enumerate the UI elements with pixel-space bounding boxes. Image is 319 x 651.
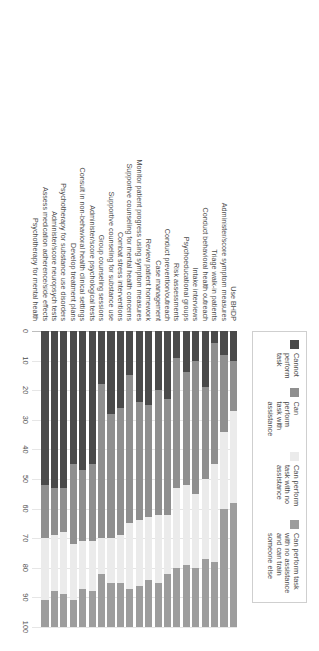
- bar-segment: [60, 331, 67, 488]
- bar-segment: [51, 591, 58, 627]
- bar-row[interactable]: [192, 331, 199, 627]
- bar-segment: [145, 405, 152, 517]
- x-tick-label: 90: [21, 593, 30, 601]
- bar-segment: [89, 541, 96, 591]
- bar-segment: [230, 361, 237, 411]
- category-label: Group counseling sessions: [98, 0, 105, 326]
- bar-segment: [89, 464, 96, 541]
- bar-segment: [211, 331, 218, 343]
- bar-segment: [51, 535, 58, 591]
- bar-segment: [173, 568, 180, 627]
- bar-segment: [136, 402, 143, 520]
- bar-row[interactable]: [107, 331, 114, 627]
- bar-row[interactable]: [98, 331, 105, 627]
- bar-segment: [107, 538, 114, 582]
- bar-segment: [79, 331, 86, 470]
- bar-segment: [79, 589, 86, 627]
- bar-segment: [183, 565, 190, 627]
- legend-item[interactable]: Can perform task with no assistance and …: [266, 520, 300, 594]
- bar-row[interactable]: [79, 331, 86, 627]
- bar-row[interactable]: [60, 331, 67, 627]
- gridline-100: [32, 627, 237, 628]
- bar-segment: [183, 331, 190, 372]
- bar-segment: [230, 411, 237, 503]
- x-tick-label: 60: [21, 504, 30, 512]
- bar-segment: [145, 517, 152, 579]
- bar-segment: [117, 331, 124, 408]
- bar-segment: [70, 331, 77, 464]
- x-tick-label: 30: [21, 416, 30, 424]
- x-tick-label: 80: [21, 564, 30, 572]
- bar-segment: [117, 583, 124, 627]
- bar-row[interactable]: [230, 331, 237, 627]
- bar-segment: [202, 331, 209, 387]
- bar-segment: [220, 331, 227, 355]
- bar-row[interactable]: [51, 331, 58, 627]
- bar-row[interactable]: [183, 331, 190, 627]
- category-label: Psychoeducational groups: [183, 0, 190, 326]
- value-axis-tick-labels: 0102030405060708090100: [14, 331, 30, 627]
- bar-row[interactable]: [164, 331, 171, 627]
- bar-segment: [98, 331, 105, 384]
- legend-item[interactable]: Can perform task with assistance: [266, 388, 300, 442]
- bar-segment: [155, 331, 162, 390]
- bar-row[interactable]: [117, 331, 124, 627]
- category-label: Consult in non-behavioral health clinica…: [79, 0, 86, 326]
- legend-item[interactable]: Cannot perform task: [274, 340, 300, 378]
- bar-segment: [60, 594, 67, 627]
- chart-figure: Cannot perform taskCan perform task with…: [0, 0, 319, 651]
- bar-segment: [202, 387, 209, 479]
- bar-row[interactable]: [220, 331, 227, 627]
- category-label: Assess medication adherence/side effects: [41, 0, 48, 326]
- bar-segment: [211, 562, 218, 627]
- category-axis-labels: Use BHDPAdminister/score symptom measure…: [32, 0, 237, 326]
- bar-row[interactable]: [173, 331, 180, 627]
- bar-row[interactable]: [211, 331, 218, 627]
- legend-swatch-no-assistance: [290, 452, 299, 461]
- bar-segment: [51, 331, 58, 488]
- bar-segment: [107, 414, 114, 538]
- bar-row[interactable]: [126, 331, 133, 627]
- bar-row[interactable]: [145, 331, 152, 627]
- bar-segment: [164, 574, 171, 627]
- bar-segment: [192, 568, 199, 627]
- bar-row[interactable]: [32, 331, 39, 627]
- category-label: Combat stress interventions: [117, 0, 124, 326]
- rotated-figure-wrapper: Cannot perform taskCan perform task with…: [0, 0, 319, 651]
- bar-segment: [117, 535, 124, 582]
- category-label: Psychotherapy for substance use disorder…: [60, 0, 67, 326]
- bar-segment: [220, 509, 227, 627]
- bar-segment: [211, 343, 218, 464]
- legend-item-label: Can perform task with no assistance: [274, 465, 300, 510]
- bar-segment: [89, 331, 96, 464]
- bar-segment: [60, 532, 67, 594]
- bar-row[interactable]: [155, 331, 162, 627]
- bar-segment: [230, 503, 237, 627]
- x-tick-label: 50: [21, 475, 30, 483]
- legend-item-label: Cannot perform task: [274, 353, 300, 378]
- plot-area: [32, 331, 237, 627]
- bar-row[interactable]: [70, 331, 77, 627]
- bar-segment: [183, 485, 190, 565]
- category-label: Intake interviews: [192, 0, 199, 326]
- legend-item-label: Can perform task with assistance: [266, 401, 300, 442]
- bar-segment: [145, 331, 152, 405]
- bar-row[interactable]: [202, 331, 209, 627]
- bar-segment: [136, 586, 143, 627]
- bar-segment: [98, 538, 105, 574]
- bar-row[interactable]: [41, 331, 48, 627]
- legend-item[interactable]: Can perform task with no assistance: [274, 452, 300, 510]
- bar-segment: [155, 583, 162, 627]
- bar-row[interactable]: [136, 331, 143, 627]
- category-label: Supportive counseling for mental health …: [126, 0, 133, 326]
- bar-segment: [107, 331, 114, 414]
- bar-segment: [79, 541, 86, 588]
- bar-segment: [126, 331, 133, 375]
- bar-row[interactable]: [89, 331, 96, 627]
- bar-segment: [211, 464, 218, 562]
- bar-segment: [70, 544, 77, 600]
- bar-segment: [164, 399, 171, 514]
- bar-segment: [136, 520, 143, 585]
- bar-segment: [192, 494, 199, 568]
- bar-segment: [70, 464, 77, 544]
